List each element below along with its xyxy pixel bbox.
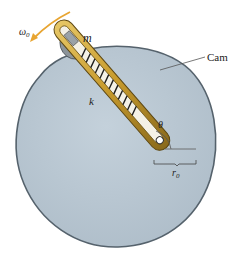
cam-diagram: ω0 m k Cam θ r0: [0, 0, 238, 258]
omega-label: ω0: [19, 26, 30, 39]
angle-label: θ: [158, 119, 163, 130]
mass-label: m: [83, 31, 92, 45]
cam-label: Cam: [207, 51, 228, 63]
